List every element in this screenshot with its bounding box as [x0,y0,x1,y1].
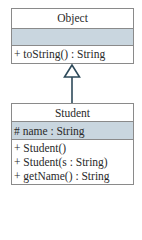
method-student-constructor-string: + Student(s : String) [14,155,133,169]
methods-compartment-student: + Student() + Student(s : String) + getN… [12,140,133,184]
hollow-triangle-arrowhead-icon [65,65,80,77]
method-getname: + getName() : String [14,169,133,183]
attribute-name: # name : String [14,124,133,138]
class-name-student: Student [12,104,133,122]
method-student-constructor: + Student() [14,141,133,155]
attributes-compartment-student: # name : String [12,122,133,140]
class-student: Student # name : String + Student() + St… [11,103,134,185]
